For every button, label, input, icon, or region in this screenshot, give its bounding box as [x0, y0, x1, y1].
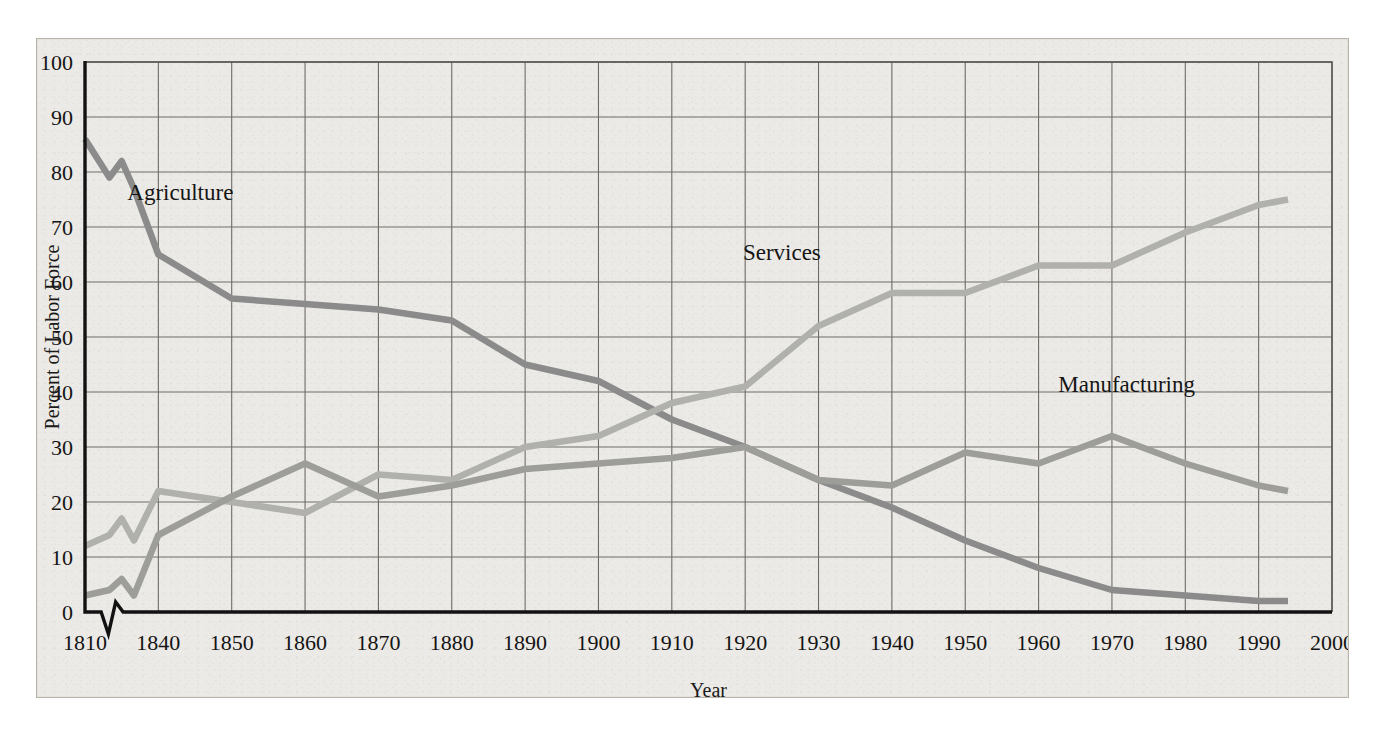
x-tick-label: 1840	[136, 630, 180, 655]
x-tick-label: 1920	[723, 630, 767, 655]
x-tick-label: 1970	[1090, 630, 1134, 655]
axis-lines-with-break	[85, 61, 1332, 634]
y-tick-label: 10	[51, 545, 73, 570]
y-tick-label: 0	[62, 600, 73, 625]
x-tick-label: 1950	[943, 630, 987, 655]
line-chart: AgricultureServicesManufacturing18101840…	[37, 39, 1348, 697]
x-tick-label: 1930	[797, 630, 841, 655]
y-tick-label: 70	[51, 215, 73, 240]
y-tick-label: 90	[51, 105, 73, 130]
y-tick-label: 80	[51, 160, 73, 185]
series-label-services: Services	[743, 240, 821, 265]
x-tick-label: 1900	[576, 630, 620, 655]
x-tick-label: 1860	[283, 630, 327, 655]
x-tick-label: 2000	[1310, 630, 1348, 655]
figure-page: AgricultureServicesManufacturing18101840…	[0, 0, 1387, 731]
series-label-agriculture: Agriculture	[127, 180, 233, 205]
x-tick-label: 1960	[1017, 630, 1061, 655]
x-axis-title: Year	[690, 679, 727, 697]
series-line-agriculture	[85, 139, 1288, 601]
x-tick-label: 1910	[650, 630, 694, 655]
x-tick-label: 1940	[870, 630, 914, 655]
series-label-manufacturing: Manufacturing	[1058, 372, 1195, 397]
x-tick-label: 1990	[1237, 630, 1281, 655]
y-axis-title: Percent of Labor Force	[41, 244, 63, 429]
y-tick-label: 30	[51, 435, 73, 460]
y-tick-label: 100	[40, 50, 73, 75]
figure-panel: AgricultureServicesManufacturing18101840…	[36, 38, 1349, 698]
x-tick-label: 1870	[356, 630, 400, 655]
x-tick-label: 1980	[1163, 630, 1207, 655]
series-line-manufacturing	[85, 436, 1288, 596]
x-tick-label: 1880	[430, 630, 474, 655]
x-tick-label: 1890	[503, 630, 547, 655]
y-tick-label: 20	[51, 490, 73, 515]
x-tick-label: 1850	[210, 630, 254, 655]
x-tick-label: 1810	[63, 630, 107, 655]
plot-area-wrapper: AgricultureServicesManufacturing18101840…	[37, 39, 1348, 697]
